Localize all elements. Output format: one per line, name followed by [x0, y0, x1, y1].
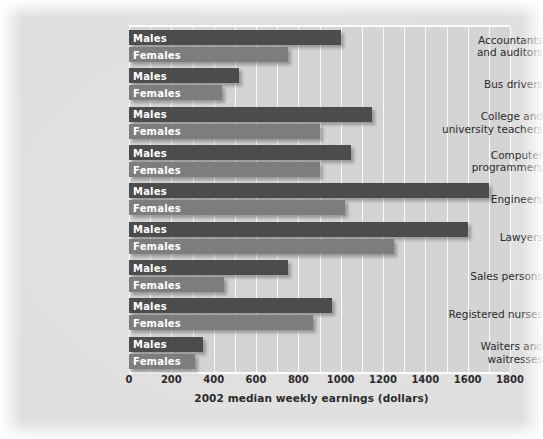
- category-label: Sales persons: [419, 270, 543, 283]
- bar-female: Females: [129, 277, 224, 292]
- category-label: Accountants and auditors: [419, 34, 543, 59]
- bar-female: Females: [129, 162, 320, 177]
- x-tick-1400: 1400: [411, 374, 439, 385]
- category-label: Lawyers: [419, 231, 543, 244]
- bar-series-label: Females: [133, 241, 181, 252]
- bar-series-label: Females: [133, 164, 181, 175]
- category-label: Bus drivers: [419, 78, 543, 91]
- x-axis-title-text: 2002 median weekly earnings (dollars): [194, 392, 428, 404]
- category-label: College and university teachers: [419, 110, 543, 135]
- bar-male: Males: [129, 30, 341, 45]
- x-tick-200: 200: [161, 374, 182, 385]
- bar-series-label: Females: [133, 317, 181, 328]
- bar-series-label: Males: [133, 70, 167, 81]
- x-tick-800: 800: [288, 374, 309, 385]
- bar-series-label: Males: [133, 262, 167, 273]
- category-label: Computer programmers: [419, 149, 543, 174]
- bar-female: Females: [129, 200, 345, 215]
- bar-series-label: Females: [133, 49, 181, 60]
- bar-male: Males: [129, 298, 332, 313]
- bar-male: Males: [129, 145, 351, 160]
- bar-series-label: Females: [133, 356, 181, 367]
- bar-female: Females: [129, 47, 288, 62]
- bar-series-label: Males: [133, 339, 167, 350]
- bar-series-label: Males: [133, 147, 167, 158]
- x-axis-title: 2002 median weekly earnings (dollars): [0, 392, 543, 404]
- category-label: Waiters and waitresses: [419, 340, 543, 365]
- chart-figure: MalesFemalesMalesFemalesMalesFemalesMale…: [0, 0, 543, 439]
- bar-series-label: Males: [133, 300, 167, 311]
- x-axis-ticks: 020040060080010001200140016001800: [129, 374, 510, 390]
- x-tick-600: 600: [246, 374, 267, 385]
- x-tick-1000: 1000: [327, 374, 355, 385]
- bar-series-label: Males: [133, 185, 167, 196]
- bar-male: Males: [129, 107, 372, 122]
- bar-series-label: Females: [133, 202, 181, 213]
- x-tick-1600: 1600: [454, 374, 482, 385]
- x-tick-0: 0: [126, 374, 133, 385]
- x-tick-1200: 1200: [369, 374, 397, 385]
- bar-series-label: Males: [133, 109, 167, 120]
- bar-series-label: Females: [133, 126, 181, 137]
- category-label: Registered nurses: [419, 308, 543, 321]
- bar-female: Females: [129, 85, 222, 100]
- bar-male: Males: [129, 222, 468, 237]
- bar-female: Females: [129, 354, 195, 369]
- bar-female: Females: [129, 124, 320, 139]
- bar-series-label: Males: [133, 224, 167, 235]
- x-tick-400: 400: [203, 374, 224, 385]
- bar-female: Females: [129, 239, 394, 254]
- bar-series-label: Females: [133, 87, 181, 98]
- bar-male: Males: [129, 260, 288, 275]
- category-label: Engineers: [419, 193, 543, 206]
- bar-female: Females: [129, 315, 313, 330]
- x-tick-1800: 1800: [496, 374, 524, 385]
- bar-male: Males: [129, 337, 203, 352]
- bar-series-label: Males: [133, 32, 167, 43]
- bar-male: Males: [129, 68, 239, 83]
- bar-series-label: Females: [133, 279, 181, 290]
